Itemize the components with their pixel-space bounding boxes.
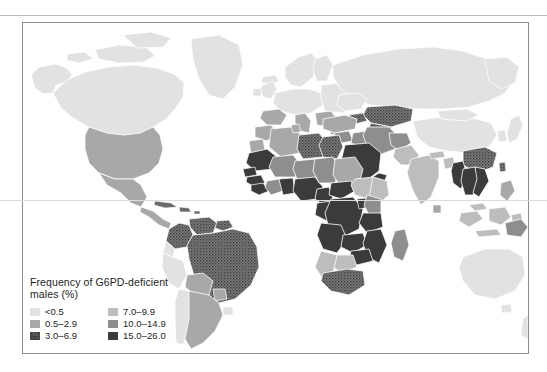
legend-item-7-0-9-9: 7.0–9.9 <box>108 306 186 318</box>
region-tunisia <box>291 124 301 133</box>
legend-item-0-5-2-9: 0.5–2.9 <box>30 318 108 330</box>
legend-title: Frequency of G6PD-deficient males (%) <box>30 276 230 301</box>
legend-swatch-7-0-9-9 <box>108 308 118 316</box>
region-taiwan <box>499 162 506 172</box>
region-sri-lanka <box>433 205 441 213</box>
equator-hairline <box>0 200 547 201</box>
region-senegal <box>243 167 257 177</box>
legend-label-lt-0-5: <0.5 <box>45 307 64 317</box>
legend-label-3-0-6-9: 3.0–6.9 <box>45 331 77 341</box>
legend: Frequency of G6PD-deficient males (%) <0… <box>30 276 230 341</box>
region-hispaniola <box>179 207 191 212</box>
region-united-states <box>85 127 163 179</box>
legend-label-10-0-14-9: 10.0–14.9 <box>123 319 166 329</box>
region-ireland <box>253 88 261 96</box>
region-puerto-rico <box>194 211 200 214</box>
legend-swatch-15-0-26-0 <box>108 332 118 340</box>
legend-label-7-0-9-9: 7.0–9.9 <box>123 307 155 317</box>
legend-item-3-0-6-9: 3.0–6.9 <box>30 330 108 342</box>
legend-item-15-0-26-0: 15.0–26.0 <box>108 330 186 342</box>
top-divider-rule <box>0 15 547 16</box>
legend-label-0-5-2-9: 0.5–2.9 <box>45 319 77 329</box>
legend-swatch-lt-0-5 <box>30 308 40 316</box>
legend-swatch-10-0-14-9 <box>108 320 118 328</box>
region-korea <box>497 130 507 142</box>
legend-item-10-0-14-9: 10.0–14.9 <box>108 318 186 330</box>
legend-label-15-0-26-0: 15.0–26.0 <box>123 331 166 341</box>
legend-item-lt-0-5: <0.5 <box>30 306 108 318</box>
legend-entries: <0.5 7.0–9.9 0.5–2.9 10.0–14.9 3.0–6.9 1 <box>30 306 230 342</box>
figure-root: Frequency of G6PD-deficient males (%) <0… <box>0 0 547 372</box>
legend-swatch-3-0-6-9 <box>30 332 40 340</box>
legend-swatch-0-5-2-9 <box>30 320 40 328</box>
region-tasmania <box>501 304 512 313</box>
